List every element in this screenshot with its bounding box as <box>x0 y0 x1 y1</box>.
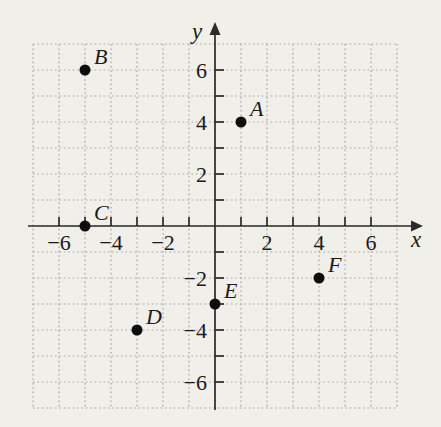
point-label-A: A <box>248 96 264 121</box>
point-label-F: F <box>327 252 342 277</box>
figure-background <box>0 0 441 427</box>
x-tick-label: 6 <box>366 230 377 255</box>
x-axis-label: x <box>410 227 422 252</box>
x-tick-label: −6 <box>47 230 70 255</box>
coordinate-plane-figure: −6−4−2246642−2−4−6xyABCDEF <box>0 0 441 427</box>
y-tick-label: −6 <box>184 370 207 395</box>
x-tick-label: −4 <box>99 230 122 255</box>
coordinate-plane-svg: −6−4−2246642−2−4−6xyABCDEF <box>0 0 441 427</box>
y-axis-label: y <box>190 19 203 44</box>
x-tick-label: 4 <box>314 230 325 255</box>
y-tick-label: 2 <box>196 162 207 187</box>
point-F <box>314 273 325 284</box>
point-C <box>80 221 91 232</box>
x-tick-label: 2 <box>262 230 273 255</box>
y-tick-label: 6 <box>196 58 207 83</box>
point-B <box>80 65 91 76</box>
x-tick-label: −2 <box>151 230 174 255</box>
point-E <box>210 299 221 310</box>
point-D <box>132 325 143 336</box>
point-A <box>236 117 247 128</box>
point-label-E: E <box>223 278 238 303</box>
point-label-D: D <box>145 304 162 329</box>
point-label-B: B <box>94 44 107 69</box>
y-tick-label: −2 <box>184 266 207 291</box>
y-tick-label: −4 <box>184 318 207 343</box>
y-tick-label: 4 <box>196 110 207 135</box>
point-label-C: C <box>94 200 109 225</box>
